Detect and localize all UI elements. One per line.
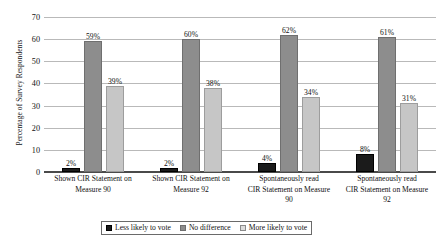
chart-legend: Less likely to voteNo differenceMore lik… <box>101 221 312 235</box>
category-label-line: Spontaneously read <box>240 174 338 185</box>
bar-chart: Percentage of Survey Respondents 0102030… <box>0 0 441 244</box>
legend-item[interactable]: Less likely to vote <box>106 223 171 232</box>
legend-swatch-icon <box>106 225 112 231</box>
x-axis-category-label: Shown CIR Statement onMeasure 92 <box>142 174 240 195</box>
bar: 61% <box>378 37 396 172</box>
gridline <box>44 172 436 173</box>
x-axis-category-label: Shown CIR Statement onMeasure 90 <box>44 174 142 195</box>
bar: 2% <box>62 168 80 172</box>
bar-value-label: 38% <box>206 79 220 88</box>
category-label-line: Shown CIR Statement on <box>142 174 240 185</box>
bar: 8% <box>356 154 374 172</box>
bar-value-label: 8% <box>360 145 370 154</box>
y-axis-title: Percentage of Survey Respondents <box>15 8 24 178</box>
y-axis-tick-label: 60 <box>32 35 40 44</box>
bar-group: 2%60%38% <box>142 17 240 172</box>
legend-swatch-icon <box>240 225 246 231</box>
legend-swatch-icon <box>180 225 186 231</box>
bar: 39% <box>106 86 124 172</box>
category-label-line: Measure 92 <box>142 185 240 196</box>
bar-value-label: 62% <box>282 26 296 35</box>
bar: 4% <box>258 163 276 172</box>
bar-value-label: 60% <box>184 30 198 39</box>
y-axis-tick-label: 30 <box>32 101 40 110</box>
plot-area: 0102030405060702%59%39%2%60%38%4%62%34%8… <box>44 17 436 172</box>
category-label-line: Shown CIR Statement on <box>44 174 142 185</box>
bar: 62% <box>280 35 298 172</box>
bar: 31% <box>400 103 418 172</box>
y-axis-tick-label: 10 <box>32 145 40 154</box>
x-axis-category-label: Spontaneously readCIR Statement on Measu… <box>240 174 338 206</box>
bar: 2% <box>160 168 178 172</box>
bar: 60% <box>182 39 200 172</box>
bar-group: 4%62%34% <box>240 17 338 172</box>
category-label-line: 90 <box>240 195 338 206</box>
category-label-line: 92 <box>338 195 436 206</box>
bar-group: 8%61%31% <box>338 17 436 172</box>
legend-label: More likely to vote <box>249 223 307 232</box>
bar: 59% <box>84 41 102 172</box>
legend-label: No difference <box>189 223 231 232</box>
bar-value-label: 61% <box>380 28 394 37</box>
y-axis-tick-label: 20 <box>32 123 40 132</box>
y-axis-tick-label: 40 <box>32 79 40 88</box>
legend-label: Less likely to vote <box>115 223 171 232</box>
y-axis-tick-label: 50 <box>32 57 40 66</box>
category-label-line: CIR Statement on Measure <box>240 185 338 196</box>
bar-value-label: 31% <box>402 94 416 103</box>
bar-value-label: 39% <box>108 77 122 86</box>
bar-value-label: 2% <box>164 159 174 168</box>
bar-group: 2%59%39% <box>44 17 142 172</box>
bar: 38% <box>204 88 222 172</box>
y-axis-tick-label: 70 <box>32 13 40 22</box>
category-label-line: Spontaneously read <box>338 174 436 185</box>
x-axis-category-label: Spontaneously readCIR Statement on Measu… <box>338 174 436 206</box>
bar: 34% <box>302 97 320 172</box>
legend-item[interactable]: No difference <box>180 223 231 232</box>
legend-item[interactable]: More likely to vote <box>240 223 307 232</box>
bar-value-label: 2% <box>66 159 76 168</box>
bar-value-label: 4% <box>262 154 272 163</box>
bar-value-label: 59% <box>86 32 100 41</box>
category-label-line: CIR Statement on Measure <box>338 185 436 196</box>
x-axis-category-labels: Shown CIR Statement onMeasure 90Shown CI… <box>44 174 436 214</box>
category-label-line: Measure 90 <box>44 185 142 196</box>
bar-value-label: 34% <box>304 88 318 97</box>
y-axis-tick-label: 0 <box>36 168 40 177</box>
